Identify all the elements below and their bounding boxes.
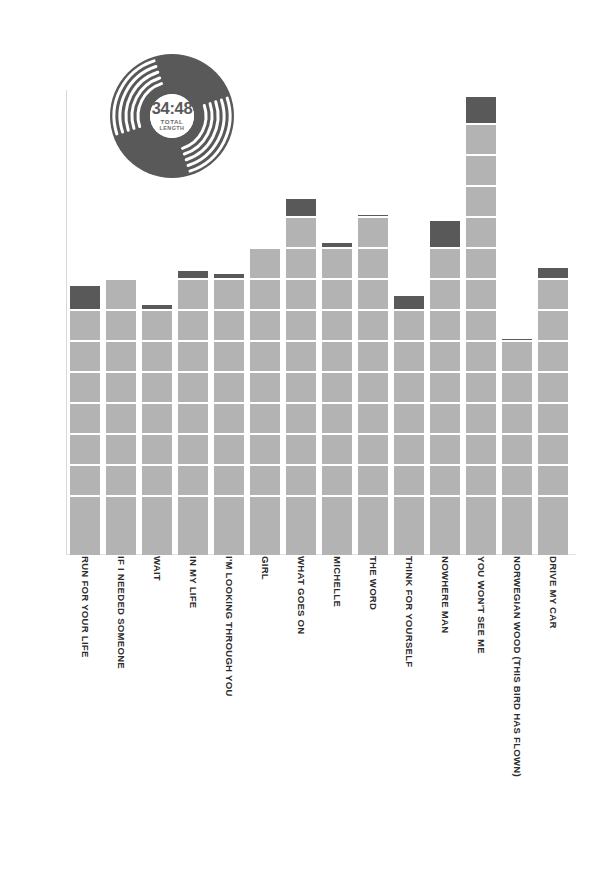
bar-segment [142,305,172,309]
bar-segment [178,311,208,340]
bar-segment [538,404,568,433]
bar-segment [250,342,280,371]
bar-segment [322,526,352,555]
bar-segment [322,243,352,247]
bar-segment [322,435,352,464]
bar-segment [70,404,100,433]
bar-segment [466,156,496,185]
bar-segment [70,435,100,464]
bar-segment [286,218,316,247]
bar-segment [106,404,136,433]
bar-segment [502,404,532,433]
bar-segment [502,339,532,341]
bar-segment [250,497,280,526]
bar-segment [322,311,352,340]
bar-segment [142,373,172,402]
bar-segment [250,404,280,433]
bar-segment [430,526,460,555]
bar-segment [286,342,316,371]
x-axis-tick-labels: RUN FOR YOUR LIFEIF I NEEDED SOMEONEWAIT… [66,556,576,876]
bar-segment [394,466,424,495]
bar-segment [178,280,208,309]
bar-segment [322,249,352,278]
bar-stack [538,266,568,555]
bar-segment [358,497,388,526]
bar-stack [286,197,316,555]
bar-segment [430,280,460,309]
bar-segment [322,280,352,309]
bar-stack [106,278,136,555]
x-axis-category-label: THINK FOR YOURSELF [394,556,424,667]
bar-segment [466,435,496,464]
bar-segment [466,466,496,495]
bar-segment [538,435,568,464]
bar-stack [178,269,208,555]
bar-segment [430,221,460,247]
bar-segment [466,311,496,340]
bar-segment [538,311,568,340]
bar-segment [430,466,460,495]
bar-stack [430,219,460,555]
bar-segment [538,342,568,371]
bar-segment [214,274,244,278]
bar-segment [538,497,568,526]
bar-segment [322,497,352,526]
bar-segment [178,404,208,433]
bar-stack [214,272,244,555]
bar-segment [286,497,316,526]
bar-segment [142,526,172,555]
x-axis-category-label: DRIVE MY CAR [538,556,568,629]
bar-segment [142,497,172,526]
bar-segment [466,187,496,216]
bar-segment [214,311,244,340]
bar-segment [394,404,424,433]
bar-segment [394,342,424,371]
x-axis-category-label: I'M LOOKING THROUGH YOU [214,556,244,697]
bar-segment [502,526,532,555]
x-axis-category-label: IF I NEEDED SOMEONE [106,556,136,669]
bar-segment [70,286,100,309]
bar-segment [358,218,388,247]
bar-segment [358,435,388,464]
bar-segment [106,311,136,340]
bar-stack [70,284,100,555]
bar-segment [430,435,460,464]
bar-segment [142,466,172,495]
bar-segment [106,526,136,555]
bar-segment [322,466,352,495]
bar-segment [502,342,532,371]
bar-segment [250,373,280,402]
bar-segment [178,373,208,402]
x-axis-category-label: GIRL [250,556,280,580]
bar-segment [214,373,244,402]
bar-segment [538,280,568,309]
bar-segment [70,342,100,371]
bar-segment [178,466,208,495]
bar-stack [358,213,388,556]
bar-segment [502,373,532,402]
bar-series [66,90,576,555]
bar-segment [394,497,424,526]
x-axis-category-label: THE WORD [358,556,388,610]
bar-segment [538,373,568,402]
bar-stack [502,337,532,556]
bar-segment [358,526,388,555]
track-length-bar-chart: 34:48 TOTAL LENGTH 3.203.103.002.502.402… [0,0,598,884]
x-axis-category-label: IN MY LIFE [178,556,208,608]
bar-segment [394,435,424,464]
bar-segment [358,215,388,217]
bar-segment [502,435,532,464]
bar-segment [466,97,496,123]
bar-segment [142,435,172,464]
bar-segment [70,526,100,555]
bar-segment [466,497,496,526]
x-axis-category-label: YOU WON'T SEE ME [466,556,496,654]
bar-segment [358,311,388,340]
bar-segment [394,296,424,310]
bar-segment [250,526,280,555]
bar-segment [178,435,208,464]
bar-segment [286,280,316,309]
bar-segment [466,218,496,247]
bar-segment [70,497,100,526]
bar-segment [250,311,280,340]
